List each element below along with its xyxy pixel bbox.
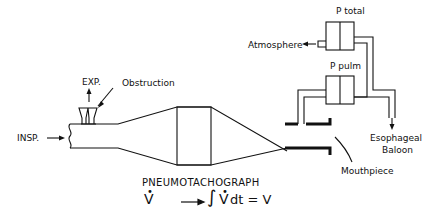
tube-top-line xyxy=(70,107,287,151)
pulm-line-outer xyxy=(298,90,326,124)
pulm-line-inner xyxy=(304,97,326,124)
p-total-label: P total xyxy=(336,6,365,16)
vdot-dot: • xyxy=(147,187,153,197)
pneumotachograph-diagram: P total Atmosphere P pulm EXP. Obstructi… xyxy=(0,0,437,219)
obstruction-label: Obstruction xyxy=(122,78,175,88)
equation-rest: dt = V xyxy=(230,195,271,205)
diagram-title: PNEUMOTACHOGRAPH xyxy=(142,178,260,188)
mouthpiece-label: Mouthpiece xyxy=(341,166,393,176)
integral-symbol: ∫ xyxy=(207,192,216,202)
tube-bottom-line xyxy=(70,148,287,165)
esophageal-label: Esophageal xyxy=(370,133,422,143)
insp-label: INSP. xyxy=(17,133,39,143)
obstruction-valve xyxy=(79,108,97,124)
p-pulm-label: P pulm xyxy=(330,61,361,71)
atmosphere-label: Atmosphere xyxy=(248,40,302,50)
baloon-label: Baloon xyxy=(382,145,413,155)
pneumotach-screen xyxy=(177,107,211,165)
vdot2-dot: • xyxy=(222,187,228,197)
exp-label: EXP. xyxy=(82,77,101,87)
inlet-cut xyxy=(69,124,71,148)
